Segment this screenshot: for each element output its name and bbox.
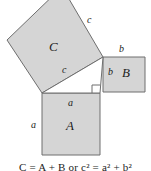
side-b-inner-label: b — [108, 67, 113, 77]
side-c-upper-label: c — [87, 15, 91, 25]
side-c-lower-label: c — [62, 65, 66, 75]
caption-text: C = A + B or c² = a² + b² — [19, 162, 132, 171]
square-c-label: C — [49, 40, 58, 53]
side-a-top-label: a — [68, 98, 73, 108]
side-a-left-label: a — [31, 120, 36, 130]
square-b-label: B — [122, 66, 130, 79]
figure-caption: C = A + B or c² = a² + b² — [0, 162, 151, 171]
side-b-top-label: b — [119, 44, 124, 54]
square-a-label: A — [66, 119, 74, 132]
pythagorean-diagram — [0, 0, 151, 171]
figure-container: C B A c c b b a a C = A + B or c² = a² +… — [0, 0, 151, 171]
